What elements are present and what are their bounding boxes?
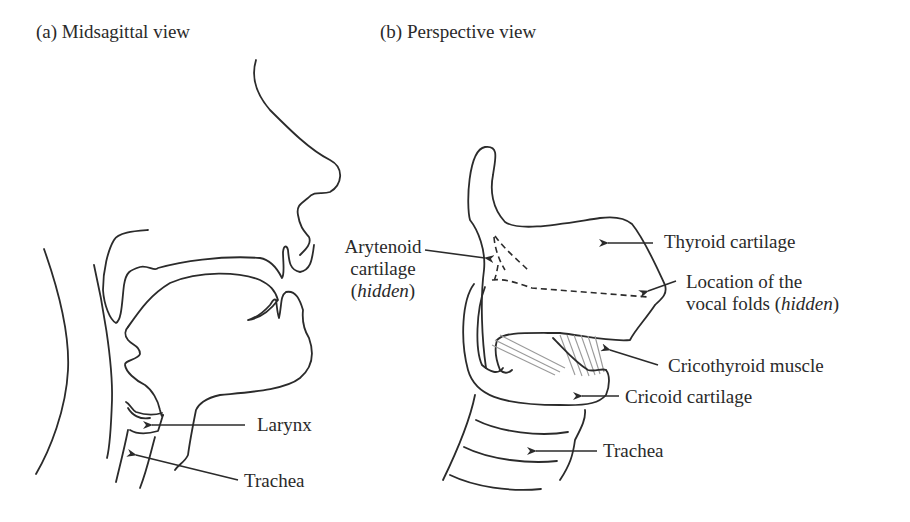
label-thyroid-cartilage: Thyroid cartilage bbox=[664, 231, 795, 253]
pharynx-front bbox=[125, 327, 163, 416]
vocal-line1: Location of the bbox=[686, 271, 839, 293]
vocal-folds-arrow bbox=[648, 281, 676, 291]
hidden-italic: hidden bbox=[781, 293, 833, 314]
trachea-tube-b bbox=[443, 395, 585, 480]
trachea-ring-3 bbox=[450, 475, 541, 490]
arytenoid-line3: (hidden) bbox=[340, 280, 426, 302]
arytenoid-line2: cartilage bbox=[340, 258, 426, 280]
thyroid-cartilage-outline bbox=[468, 147, 665, 368]
label-cricothyroid-muscle: Cricothyroid muscle bbox=[668, 355, 824, 377]
hidden-italic: hidden bbox=[357, 280, 409, 301]
arytenoid-line1: Arytenoid bbox=[340, 236, 426, 258]
panel-b-title: (b) Perspective view bbox=[380, 21, 536, 43]
trachea-arrow-a bbox=[136, 455, 238, 480]
cricothyroid-arrow bbox=[610, 350, 658, 365]
label-arytenoid: Arytenoid cartilage (hidden) bbox=[340, 236, 426, 302]
label-vocal-folds: Location of the vocal folds (hidden) bbox=[686, 271, 839, 315]
paren-close: ) bbox=[833, 293, 839, 314]
trachea-ring-2 bbox=[464, 447, 557, 462]
cricoid-arch bbox=[477, 287, 503, 372]
label-trachea-a: Trachea bbox=[244, 470, 305, 492]
paren-close: ) bbox=[409, 280, 415, 301]
nasal-cavity bbox=[103, 230, 314, 323]
arytenoid-cartilage-hidden bbox=[492, 236, 648, 297]
trachea-ring-1 bbox=[476, 420, 568, 434]
cricoid-cartilage-outline bbox=[463, 284, 609, 405]
label-larynx: Larynx bbox=[257, 414, 312, 436]
larynx-shape bbox=[126, 402, 163, 434]
perspective-drawing bbox=[425, 147, 676, 490]
diagram-canvas bbox=[0, 0, 910, 522]
label-trachea-b: Trachea bbox=[603, 440, 664, 462]
tongue bbox=[128, 274, 312, 470]
vocal-line2: vocal folds (hidden) bbox=[686, 293, 839, 315]
vocal-line2-text: vocal folds ( bbox=[686, 293, 781, 314]
face-profile bbox=[254, 60, 340, 255]
back-of-neck bbox=[36, 249, 68, 474]
arytenoid-arrow bbox=[425, 250, 485, 258]
panel-a-title: (a) Midsagittal view bbox=[36, 21, 190, 43]
label-cricoid-cartilage: Cricoid cartilage bbox=[625, 386, 752, 408]
